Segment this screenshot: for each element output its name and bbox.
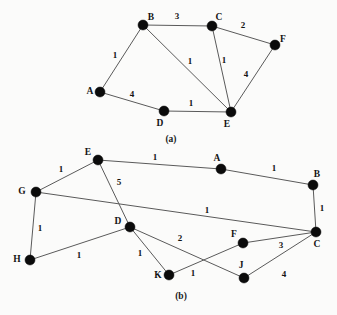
edge-weight-b-c: 1: [320, 203, 325, 213]
node-label-h: H: [13, 254, 21, 264]
edge-d-e: [164, 111, 231, 112]
node-k[interactable]: [164, 270, 174, 280]
edge-e-g: [36, 160, 98, 192]
caption-panel-b: (b): [175, 291, 187, 302]
edge-weight-b-c: 3: [175, 11, 180, 21]
node-g[interactable]: [31, 187, 41, 197]
edge-weight-a-b: 1: [113, 50, 118, 60]
edge-weight-d-j: 2: [178, 233, 183, 243]
edge-weight-k-f: 1: [191, 268, 196, 278]
edge-weight-e-a: 1: [153, 152, 158, 162]
edge-b-c: [313, 185, 316, 232]
node-h[interactable]: [25, 255, 35, 265]
node-label-j: J: [239, 260, 244, 270]
edge-weight-d-k: 1: [138, 248, 143, 258]
edge-d-j: [130, 227, 244, 278]
edge-b-c: [143, 25, 212, 26]
edge-e-a: [98, 160, 221, 169]
edge-a-b: [221, 169, 313, 185]
edge-d-k: [130, 227, 169, 275]
node-d[interactable]: [159, 106, 169, 116]
node-label-e: E: [224, 119, 230, 129]
weighted-graph-figure: 13112441ABCDEF(a) 1115111112134EABGDCFHK…: [0, 0, 337, 315]
node-label-d: D: [157, 118, 164, 128]
node-e[interactable]: [93, 155, 103, 165]
edge-weight-e-g: 1: [59, 164, 64, 174]
node-f[interactable]: [238, 238, 248, 248]
edge-k-f: [169, 243, 243, 275]
edge-weight-c-f: 2: [241, 20, 246, 30]
edge-weight-g-c: 1: [205, 205, 210, 215]
graph-panel-a: 13112441ABCDEF(a): [87, 11, 287, 145]
edge-c-e: [212, 26, 231, 112]
edge-weight-c-e: 1: [222, 55, 227, 65]
node-b[interactable]: [138, 20, 148, 30]
edge-weight-e-f: 4: [244, 69, 249, 79]
edge-j-c: [244, 232, 316, 278]
node-a[interactable]: [216, 164, 226, 174]
node-j[interactable]: [239, 273, 249, 283]
node-label-c: C: [314, 239, 321, 249]
node-c[interactable]: [311, 227, 321, 237]
node-label-f: F: [231, 229, 237, 239]
edge-b-e: [143, 25, 231, 112]
edge-weight-g-h: 1: [38, 223, 43, 233]
node-label-b: B: [148, 12, 155, 22]
edge-e-f: [231, 45, 275, 112]
node-label-g: G: [18, 186, 26, 196]
graph-panel-b: 1115111112134EABGDCFHKJ(b): [13, 147, 324, 302]
edge-weight-d-e: 1: [189, 98, 194, 108]
edge-weight-b-e: 1: [188, 56, 193, 66]
node-e[interactable]: [226, 107, 236, 117]
node-b[interactable]: [308, 180, 318, 190]
figure-container: 13112441ABCDEF(a) 1115111112134EABGDCFHK…: [0, 0, 337, 315]
edge-weight-a-b: 1: [272, 163, 277, 173]
edge-weight-a-d: 4: [130, 89, 135, 99]
node-f[interactable]: [270, 40, 280, 50]
node-label-a: A: [214, 153, 221, 163]
node-d[interactable]: [125, 222, 135, 232]
node-label-d: D: [115, 216, 122, 226]
edge-g-h: [30, 192, 36, 260]
caption-panel-a: (a): [165, 134, 176, 145]
edge-weight-j-c: 4: [282, 269, 287, 279]
edge-weight-e-d: 5: [117, 177, 122, 187]
node-c[interactable]: [207, 21, 217, 31]
node-a[interactable]: [95, 87, 105, 97]
edge-a-b: [100, 25, 143, 92]
edge-weight-h-d: 1: [77, 250, 82, 260]
node-label-e: E: [85, 147, 91, 157]
edge-g-c: [36, 192, 316, 232]
node-label-k: K: [154, 270, 162, 280]
node-label-b: B: [314, 169, 321, 179]
node-label-a: A: [87, 86, 94, 96]
node-label-f: F: [280, 34, 286, 44]
node-label-c: C: [216, 12, 223, 22]
edge-weight-f-c: 3: [279, 240, 284, 250]
